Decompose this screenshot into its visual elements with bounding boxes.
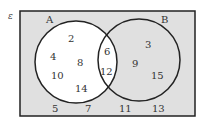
universe-label: ε bbox=[8, 11, 13, 21]
set-a-label: A bbox=[45, 14, 54, 25]
outside-element: 11 bbox=[119, 103, 132, 114]
outside-element: 13 bbox=[152, 103, 165, 114]
set-a-element: 8 bbox=[77, 57, 83, 68]
set-a-element: 10 bbox=[51, 70, 64, 81]
outside-element: 5 bbox=[52, 103, 58, 114]
set-b-element: 15 bbox=[151, 70, 164, 81]
outside-element: 7 bbox=[85, 103, 91, 114]
intersection-element: 6 bbox=[104, 46, 110, 57]
set-a-element: 2 bbox=[68, 33, 74, 44]
set-b-label: B bbox=[161, 14, 168, 25]
set-b-element: 3 bbox=[145, 39, 151, 50]
set-b-element: 9 bbox=[132, 58, 138, 69]
intersection-element: 12 bbox=[100, 66, 113, 77]
set-a-element: 4 bbox=[50, 51, 56, 62]
set-a-element: 14 bbox=[75, 83, 88, 94]
venn-diagram: ε A B 2 4 8 10 14 6 12 3 9 15 5 7 11 13 bbox=[0, 0, 204, 119]
